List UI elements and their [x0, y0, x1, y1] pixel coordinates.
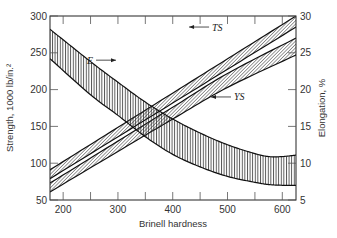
x-axis-title: Brinell hardness — [139, 218, 207, 229]
y-tick-label: 200 — [30, 84, 47, 95]
x-tick-label: 200 — [55, 204, 72, 215]
annotation-e: E — [86, 55, 116, 66]
y-tick-label: 150 — [30, 121, 47, 132]
annotation-ts: TS — [189, 22, 223, 33]
data-bands — [50, 16, 296, 192]
svg-text:E: E — [86, 55, 93, 66]
y2-tick-label: 5 — [300, 195, 306, 206]
y2-tick-label: 10 — [300, 158, 312, 169]
x-tick-label: 300 — [110, 204, 127, 215]
x-tick-label: 600 — [274, 204, 291, 215]
svg-text:YS: YS — [234, 91, 245, 102]
y-tick-label: 100 — [30, 158, 47, 169]
chart: 2003004005006005010015020025030051015202… — [0, 0, 337, 238]
y2-tick-label: 25 — [300, 47, 312, 58]
y-tick-label: 50 — [36, 195, 48, 206]
x-tick-label: 500 — [219, 204, 236, 215]
y2-tick-label: 30 — [300, 11, 312, 22]
x-tick-label: 400 — [164, 204, 181, 215]
y-tick-label: 300 — [30, 11, 47, 22]
y-tick-label: 250 — [30, 47, 47, 58]
y2-tick-label: 20 — [300, 84, 312, 95]
svg-text:TS: TS — [212, 22, 223, 33]
y-axis-title: Strength, 1000 lb/in.² — [4, 64, 15, 152]
y2-tick-label: 15 — [300, 121, 312, 132]
y2-axis-title: Elongation, % — [316, 78, 327, 137]
